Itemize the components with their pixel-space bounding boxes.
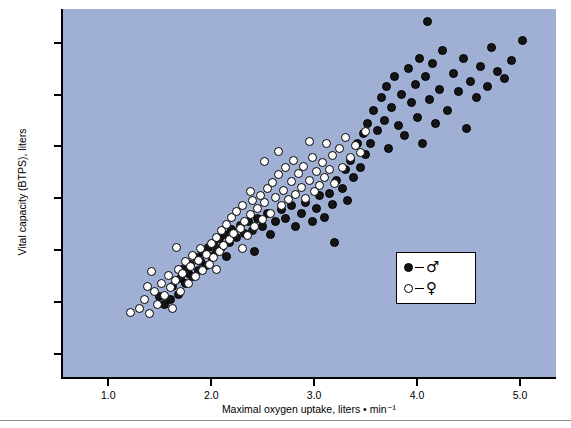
scatter-point-male: [518, 36, 527, 45]
scatter-point-male: [443, 106, 452, 115]
scatter-point-male: [380, 116, 389, 125]
scatter-point-female: [143, 282, 152, 291]
scatter-point-male: [349, 173, 358, 182]
scatter-point-female: [341, 133, 350, 142]
scatter-point-male: [411, 80, 420, 89]
scatter-point-male: [271, 217, 280, 226]
x-tick-mark: [313, 379, 315, 386]
scatter-point-female: [171, 276, 180, 285]
x-tick-mark: [210, 379, 212, 386]
male-symbol-icon: ♂: [426, 260, 439, 275]
scatter-point-female: [260, 198, 269, 207]
y-axis-line: [61, 9, 63, 378]
chart-legend: ♂ ♀: [396, 252, 476, 304]
x-tick-label: 4.0: [397, 389, 437, 401]
y-tick-mark: [54, 94, 61, 96]
scatter-point-male: [476, 62, 485, 71]
scatter-point-male: [459, 54, 468, 63]
scatter-point-female: [172, 243, 181, 252]
scatter-point-male: [418, 139, 427, 148]
scatter-point-female: [243, 231, 252, 240]
y-tick-mark: [54, 145, 61, 147]
scatter-point-female: [308, 153, 317, 162]
x-axis-line: [61, 377, 556, 379]
scatter-point-female: [168, 304, 177, 313]
scatter-point-male: [428, 59, 437, 68]
x-tick-label: 3.0: [294, 389, 334, 401]
scatter-point-female: [279, 186, 288, 195]
legend-marker-male-icon: [404, 263, 413, 272]
scatter-point-male: [421, 72, 430, 81]
bottom-divider: [0, 420, 571, 421]
scatter-point-female: [176, 287, 185, 296]
scatter-point-male: [363, 119, 372, 128]
y-axis-title: Vital capacity (BTPS), liters: [16, 92, 28, 292]
scatter-point-male: [325, 189, 334, 198]
female-symbol-icon: ♀: [426, 281, 437, 296]
scatter-point-female: [274, 170, 283, 179]
scatter-point-male: [330, 238, 339, 247]
legend-entry-female: ♀: [404, 281, 437, 296]
scatter-point-male: [356, 163, 365, 172]
scatter-point-male: [472, 93, 481, 102]
scatter-point-male: [390, 72, 399, 81]
legend-dash-male-icon: [415, 267, 424, 269]
scatter-point-male: [387, 103, 396, 112]
scatter-point-male: [382, 82, 391, 91]
x-tick-label: 2.0: [191, 389, 231, 401]
legend-dash-female-icon: [415, 288, 424, 290]
scatter-point-female: [145, 309, 154, 318]
scatter-point-female: [305, 137, 314, 146]
scatter-point-male: [487, 43, 496, 52]
x-tick-mark: [107, 379, 109, 386]
legend-entry-male: ♂: [404, 260, 439, 275]
x-tick-mark: [416, 379, 418, 386]
scatter-point-female: [274, 147, 283, 156]
scatter-point-male: [308, 217, 317, 226]
scatter-point-male: [483, 82, 492, 91]
figure-container: 1.02.03.04.05.06.07.0 1.02.03.04.05.0 ♂ …: [0, 0, 571, 428]
y-tick-mark: [54, 197, 61, 199]
scatter-point-female: [315, 181, 324, 190]
scatter-point-male: [328, 200, 337, 209]
x-tick-label: 1.0: [88, 389, 128, 401]
scatter-point-male: [435, 85, 444, 94]
scatter-point-female: [140, 295, 149, 304]
scatter-point-female: [346, 153, 355, 162]
scatter-point-female: [356, 148, 365, 157]
scatter-point-female: [299, 162, 308, 171]
scatter-point-male: [431, 119, 440, 128]
y-tick-mark: [54, 301, 61, 303]
scatter-point-male: [369, 106, 378, 115]
scatter-point-male: [413, 113, 422, 122]
scatter-point-female: [135, 304, 144, 313]
scatter-point-female: [320, 173, 329, 182]
scatter-point-female: [178, 269, 187, 278]
scatter-point-male: [377, 93, 386, 102]
scatter-point-male: [343, 196, 352, 205]
legend-marker-female-icon: [404, 284, 413, 293]
scatter-point-female: [305, 176, 314, 185]
scatter-point-male: [462, 124, 471, 133]
x-axis-title: Maximal oxygen uptake, liters • min⁻¹: [62, 403, 556, 415]
x-tick-label: 5.0: [500, 389, 540, 401]
y-tick-mark: [54, 249, 61, 251]
x-tick-mark: [519, 379, 521, 386]
scatter-point-female: [271, 193, 280, 202]
scatter-point-male: [415, 54, 424, 63]
y-tick-mark: [54, 42, 61, 44]
scatter-point-male: [250, 247, 259, 256]
scatter-point-male: [312, 204, 321, 213]
y-tick-mark: [54, 353, 61, 355]
scatter-point-female: [281, 163, 290, 172]
scatter-point-female: [312, 167, 321, 176]
scatter-point-male: [449, 69, 458, 78]
